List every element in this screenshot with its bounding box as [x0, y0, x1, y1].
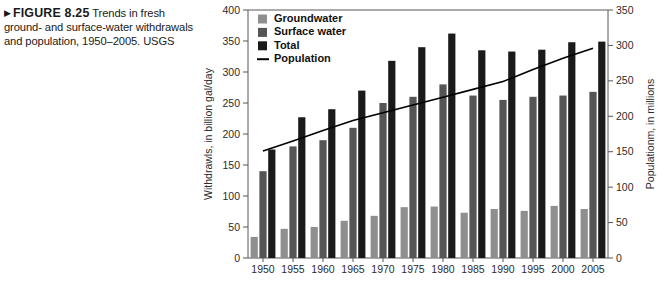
bar-surface-water-1995: [529, 97, 536, 258]
y-axis-tick-label: 400: [222, 4, 240, 16]
bar-total-1990: [508, 52, 515, 258]
bar-surface-water-1990: [499, 100, 506, 258]
bar-groundwater-1995: [521, 211, 528, 258]
bar-surface-water-1955: [289, 146, 296, 258]
x-axis-tick-label: 1975: [401, 263, 425, 275]
bar-groundwater-1990: [491, 209, 498, 258]
legend-label-total: Total: [274, 39, 299, 51]
figure-caption: ▶FIGURE 8.25 Trends in fresh ground- and…: [4, 6, 194, 49]
bar-total-1995: [538, 50, 545, 258]
bar-groundwater-1960: [311, 227, 318, 258]
x-axis-tick-label: 1985: [461, 263, 485, 275]
bar-groundwater-1970: [371, 216, 378, 258]
bar-total-1965: [358, 91, 365, 258]
bar-total-2000: [568, 42, 575, 258]
y-axis-tick-label: 350: [222, 35, 240, 47]
x-axis-tick-label: 1970: [371, 263, 395, 275]
y-axis-tick-label: 300: [222, 66, 240, 78]
legend-swatch-surface-water: [258, 28, 267, 37]
x-axis-tick-label: 1965: [341, 263, 365, 275]
bar-groundwater-1950: [251, 237, 258, 258]
y2-axis-tick-label: 350: [616, 4, 634, 16]
y2-axis-tick-label: 300: [616, 39, 634, 51]
y2-axis-tick-label: 200: [616, 110, 634, 122]
y2-axis-tick-label: 0: [616, 252, 622, 264]
bar-groundwater-1980: [431, 207, 438, 258]
bar-groundwater-1985: [461, 213, 468, 258]
bar-surface-water-1985: [469, 96, 476, 258]
legend-swatch-groundwater: [258, 15, 267, 24]
legend-label-surface-water: Surface water: [274, 25, 347, 37]
bar-total-1950: [268, 150, 275, 259]
bar-surface-water-2000: [559, 96, 566, 258]
bar-total-1975: [418, 47, 425, 258]
legend-label-population: Population: [274, 52, 331, 64]
bar-groundwater-1965: [341, 221, 348, 258]
bar-total-2005: [598, 42, 605, 258]
bar-surface-water-1950: [259, 171, 266, 258]
bar-surface-water-1970: [379, 103, 386, 258]
y-axis-tick-label: 0: [234, 252, 240, 264]
y2-axis-tick-label: 150: [616, 145, 634, 157]
bar-surface-water-1975: [409, 97, 416, 258]
y-axis-tick-label: 150: [222, 159, 240, 171]
y-axis-tick-label: 100: [222, 190, 240, 202]
chart-container: 0501001502002503003504000501001502002503…: [196, 0, 668, 281]
bar-surface-water-1960: [319, 140, 326, 258]
x-axis-tick-label: 2005: [581, 263, 605, 275]
figure-number-label: FIGURE 8.25: [13, 6, 90, 20]
caption-arrow-icon: ▶: [4, 8, 11, 18]
legend-swatch-total: [258, 41, 267, 50]
bar-total-1985: [478, 50, 485, 258]
x-axis-tick-label: 1950: [251, 263, 275, 275]
y-axis-title: Withdrawls, in billion gal/day: [202, 67, 214, 200]
bar-total-1960: [328, 109, 335, 258]
legend-label-groundwater: Groundwater: [274, 12, 343, 24]
x-axis-tick-label: 1955: [281, 263, 305, 275]
y2-axis-title: Populationm, in millions: [644, 79, 656, 189]
bar-groundwater-1975: [401, 207, 408, 258]
bar-total-1970: [388, 61, 395, 258]
bar-groundwater-2005: [581, 209, 588, 258]
x-axis-tick-label: 1960: [311, 263, 335, 275]
x-axis-tick-label: 1990: [491, 263, 515, 275]
y2-axis-tick-label: 50: [616, 216, 628, 228]
x-axis-tick-label: 1995: [521, 263, 545, 275]
y2-axis-tick-label: 100: [616, 181, 634, 193]
x-axis-tick-label: 1980: [431, 263, 455, 275]
bar-groundwater-1955: [281, 229, 288, 258]
bar-surface-water-1965: [349, 128, 356, 258]
bar-total-1980: [448, 34, 455, 258]
bar-surface-water-1980: [439, 84, 446, 258]
y-axis-tick-label: 250: [222, 97, 240, 109]
y-axis-tick-label: 50: [228, 221, 240, 233]
y-axis-tick-label: 200: [222, 128, 240, 140]
trends-bar-chart: 0501001502002503003504000501001502002503…: [196, 0, 668, 281]
bar-surface-water-2005: [589, 92, 596, 258]
bar-groundwater-2000: [551, 206, 558, 258]
y2-axis-tick-label: 250: [616, 74, 634, 86]
x-axis-tick-label: 2000: [551, 263, 575, 275]
